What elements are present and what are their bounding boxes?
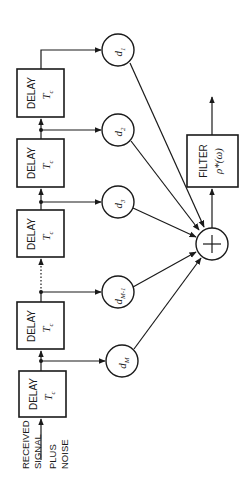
tapped-delay-line-diagram: DELAY Tc DELAY Tc DELAY Tc DELAY Tc DELA… [0, 0, 246, 499]
delay-label: DELAY [28, 378, 39, 410]
delay-block-1: DELAY Tc [17, 69, 64, 117]
delay-label: DELAY [26, 77, 37, 109]
tap-weight-dM-1: dM-1 [102, 276, 134, 308]
filter-block: FILTER ρ*(ω) [187, 135, 238, 187]
tap-weight-d2: d2 [102, 114, 134, 146]
delay-block-5: DELAY Tc [19, 371, 66, 417]
delay-label: DELAY [26, 147, 37, 179]
tap-weight-dM: dM [106, 345, 138, 377]
tap-to-summer-lines [130, 63, 204, 349]
delay-label: DELAY [26, 310, 37, 342]
tap-weight-d3: d3 [102, 186, 134, 218]
filter-function: ρ*(ω) [212, 148, 225, 175]
delay-block-4: DELAY Tc [17, 302, 64, 349]
delay-block-2: DELAY Tc [17, 139, 64, 187]
svg-text:RECEIVED: RECEIVED [20, 420, 31, 469]
tap-weight-d1: d1 [102, 34, 134, 66]
input-label: RECEIVED SIGNAL PLUS NOISE [20, 420, 70, 469]
delay-block-3: DELAY Tc [17, 210, 64, 257]
delay-label: DELAY [26, 218, 37, 250]
svg-text:NOISE: NOISE [59, 439, 70, 469]
summer [196, 228, 228, 260]
svg-text:SIGNAL: SIGNAL [32, 434, 43, 469]
filter-label: FILTER [198, 144, 209, 178]
svg-text:PLUS: PLUS [47, 444, 58, 469]
